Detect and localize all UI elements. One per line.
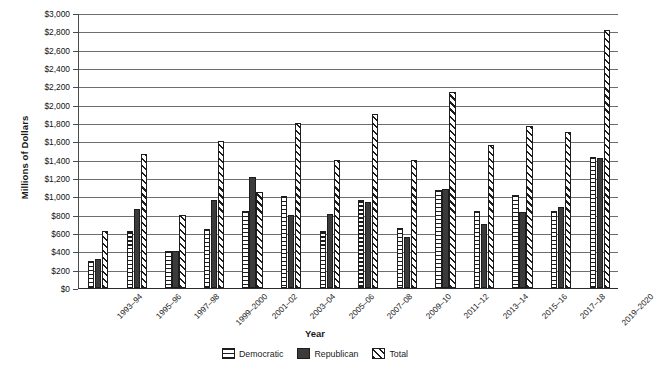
bar-total [411, 160, 417, 288]
x-tick-label: 2001–02 [270, 292, 299, 321]
bar-group [551, 14, 571, 288]
bar-republican [597, 158, 603, 288]
gridline [79, 179, 618, 180]
bar-democratic [242, 211, 248, 288]
y-tick-mark [73, 197, 78, 198]
bar-republican [327, 214, 333, 288]
y-tick-mark [73, 87, 78, 88]
y-tick-mark [73, 14, 78, 15]
bar-democratic [320, 231, 326, 288]
y-tick-label: $600 [0, 229, 70, 239]
bar-group [512, 14, 532, 288]
bar-group [590, 14, 610, 288]
y-tick-mark [73, 234, 78, 235]
gridline [79, 216, 618, 217]
bar-group [165, 14, 185, 288]
legend-label: Democratic [239, 349, 283, 359]
x-tick-label: 2019–2020 [620, 292, 655, 327]
bar-total [372, 114, 378, 288]
bar-democratic [590, 157, 596, 288]
gridline [79, 197, 618, 198]
bar-total [295, 123, 301, 288]
bar-democratic [397, 228, 403, 289]
y-tick-mark [73, 106, 78, 107]
y-tick-mark [73, 32, 78, 33]
bar-republican [481, 224, 487, 288]
y-tick-label: $1,800 [0, 119, 70, 129]
bar-republican [404, 237, 410, 288]
bar-republican [558, 207, 564, 288]
legend-swatch-democratic [222, 348, 235, 359]
bar-total [334, 160, 340, 288]
bar-total [604, 30, 610, 289]
legend-label: Total [389, 349, 408, 359]
y-tick-label: $1,000 [0, 192, 70, 202]
bar-democratic [127, 231, 133, 288]
x-tick-label: 2003–04 [308, 292, 337, 321]
legend-item: Total [372, 348, 408, 359]
bar-democratic [435, 190, 441, 288]
bar-group [242, 14, 262, 288]
bar-democratic [512, 195, 518, 289]
bar-democratic [88, 261, 94, 289]
bar-total [488, 145, 494, 288]
gridline [79, 32, 618, 33]
gridline [79, 87, 618, 88]
gridline [79, 106, 618, 107]
x-tick-label: 2007–08 [386, 292, 415, 321]
bar-group [397, 14, 417, 288]
gridline [79, 161, 618, 162]
chart-legend: DemocraticRepublicanTotal [0, 348, 630, 359]
gridline [79, 124, 618, 125]
y-tick-label: $2,600 [0, 46, 70, 56]
bar-democratic [474, 211, 480, 288]
y-tick-mark [73, 216, 78, 217]
y-tick-label: $1,600 [0, 137, 70, 147]
y-tick-mark [73, 124, 78, 125]
y-tick-mark [73, 51, 78, 52]
x-tick-label: 1999–2000 [234, 292, 269, 327]
bar-group [88, 14, 108, 288]
y-tick-label: $200 [0, 266, 70, 276]
y-tick-mark [73, 252, 78, 253]
bar-republican [365, 202, 371, 288]
y-tick-label: $2,200 [0, 82, 70, 92]
gridline [79, 252, 618, 253]
plot-area [78, 14, 618, 289]
y-tick-mark [73, 179, 78, 180]
legend-swatch-total [372, 348, 385, 359]
x-tick-label: 2015–16 [540, 292, 569, 321]
y-tick-mark [73, 271, 78, 272]
y-tick-label: $0 [0, 284, 70, 294]
bar-total [256, 192, 262, 288]
y-tick-label: $2,400 [0, 64, 70, 74]
bar-republican [134, 209, 140, 288]
y-tick-label: $1,400 [0, 156, 70, 166]
gridline [79, 51, 618, 52]
legend-label: Republican [314, 349, 358, 359]
gridline [79, 271, 618, 272]
bar-total [218, 141, 224, 288]
bar-group [204, 14, 224, 288]
x-tick-label: 1993–94 [116, 292, 145, 321]
bar-group [474, 14, 494, 288]
x-tick-label: 1995–96 [154, 292, 183, 321]
bar-group [320, 14, 340, 288]
y-tick-label: $800 [0, 211, 70, 221]
bar-democratic [551, 211, 557, 288]
y-tick-label: $400 [0, 247, 70, 257]
y-tick-label: $3,000 [0, 9, 70, 19]
bar-group [281, 14, 301, 288]
gridline [79, 14, 618, 15]
bar-total [449, 92, 455, 288]
bar-group [435, 14, 455, 288]
bar-republican [519, 212, 525, 288]
legend-item: Republican [297, 348, 358, 359]
x-tick-label: 2011–12 [463, 292, 491, 320]
bar-total [179, 215, 185, 288]
x-axis-title: Year [0, 328, 630, 339]
bar-republican [288, 215, 294, 288]
y-tick-mark [73, 161, 78, 162]
bar-total [102, 231, 108, 288]
